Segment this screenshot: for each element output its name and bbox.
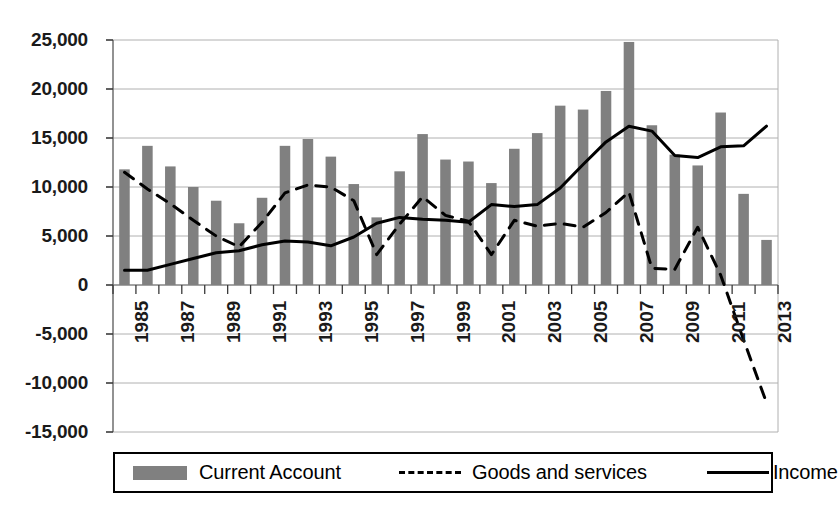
legend-entry-goods-and-services: Goods and services xyxy=(341,461,647,484)
legend-label: Goods and services xyxy=(472,461,647,484)
y-axis-tick-label: -15,000 xyxy=(10,422,88,441)
solid-line-swatch-icon xyxy=(707,471,769,474)
legend-entry-income: Income xyxy=(647,461,838,484)
x-axis-ticks xyxy=(113,285,778,294)
x-axis-tick-label: 2003 xyxy=(545,301,564,343)
x-axis-tick-label: 2011 xyxy=(729,302,748,343)
x-axis-tick-label: 1987 xyxy=(178,301,197,343)
y-axis-tick-labels: 25,00020,00015,00010,0005,0000-5,000-10,… xyxy=(0,0,88,519)
dashed-line-swatch-icon xyxy=(399,471,461,474)
x-axis-tick-label: 2001 xyxy=(499,301,518,343)
legend-label: Income xyxy=(773,461,838,484)
x-axis-tick-label: 1997 xyxy=(408,301,427,343)
legend-entry-current-account: Current Account xyxy=(115,461,341,484)
y-axis-tick-label: 20,000 xyxy=(10,79,88,98)
y-axis-tick-label: 25,000 xyxy=(10,30,88,49)
x-axis-tick-label: 1985 xyxy=(132,301,151,343)
x-axis-tick-label: 1989 xyxy=(224,301,243,343)
y-axis-ticks xyxy=(106,40,113,432)
x-axis-tick-label: 2013 xyxy=(775,301,794,343)
y-axis-tick-label: -5,000 xyxy=(10,324,88,343)
y-axis-tick-label: 0 xyxy=(10,275,88,294)
x-axis-tick-label: 2007 xyxy=(637,301,656,343)
chart-legend: Current Account Goods and services Incom… xyxy=(113,452,773,493)
x-axis-tick-label: 1993 xyxy=(316,301,335,343)
y-axis-tick-label: 10,000 xyxy=(10,177,88,196)
x-axis-tick-label: 1995 xyxy=(362,301,381,343)
y-axis-tick-label: 15,000 xyxy=(10,128,88,147)
bar-series-current-account xyxy=(119,42,772,285)
x-axis-tick-label: 1991 xyxy=(270,301,289,343)
x-axis-tick-label: 2005 xyxy=(591,301,610,343)
x-axis-tick-label: 1999 xyxy=(454,301,473,343)
x-axis-tick-label: 2009 xyxy=(683,301,702,343)
bar-swatch-icon xyxy=(133,466,187,480)
legend-label: Current Account xyxy=(199,461,341,484)
y-axis-tick-label: -10,000 xyxy=(10,373,88,392)
y-axis-tick-label: 5,000 xyxy=(10,226,88,245)
